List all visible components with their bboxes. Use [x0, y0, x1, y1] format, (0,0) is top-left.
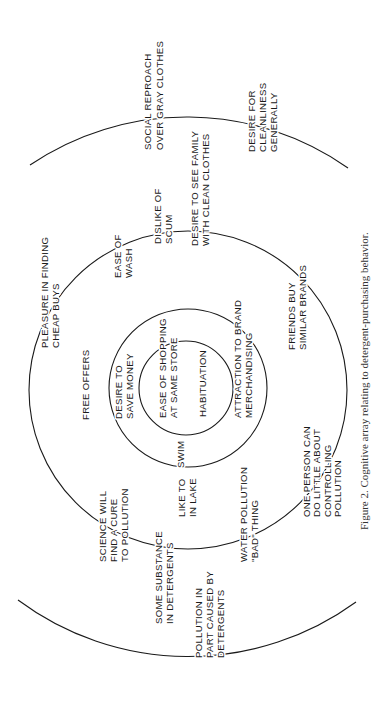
svg-text:OVER GRAY CLOTHES: OVER GRAY CLOTHES — [154, 41, 165, 150]
svg-text:DETERGENTS: DETERGENTS — [215, 589, 226, 658]
label-some-substance: SOME SUBSTANCE IN DETERGENTS — [153, 531, 175, 624]
svg-text:PLEASURE IN FINDING: PLEASURE IN FINDING — [39, 237, 50, 348]
svg-text:POLLUTION IN: POLLUTION IN — [193, 588, 204, 658]
svg-text:IN DETERGENTS: IN DETERGENTS — [164, 542, 175, 624]
svg-text:CHEAP BUYS: CHEAP BUYS — [50, 283, 61, 348]
svg-text:FIND A CURE: FIND A CURE — [108, 498, 119, 562]
ring-outer-bottom-arc — [18, 600, 356, 657]
svg-text:DESIRE TO: DESIRE TO — [113, 365, 124, 419]
svg-text:AT SAME STORE: AT SAME STORE — [168, 337, 179, 418]
label-like-to-in-lake: LIKE TO IN LAKE — [176, 478, 198, 517]
svg-text:ATTRACTION TO BRAND: ATTRACTION TO BRAND — [232, 300, 243, 418]
label-social-reproach: SOCIAL REPROACH OVER GRAY CLOTHES — [142, 41, 165, 150]
label-desire-to-see-family: DESIRE TO SEE FAMILY WITH CLEAN CLOTHES — [189, 130, 211, 246]
label-pleasure-cheap-buys: PLEASURE IN FINDING CHEAP BUYS — [39, 237, 61, 348]
svg-text:HABITUATION: HABITUATION — [197, 350, 208, 417]
figure-caption: Figure 2. Cognitive array relating to de… — [358, 232, 370, 530]
svg-text:WATER POLLUTION: WATER POLLUTION — [238, 467, 249, 562]
svg-text:LIKE TO: LIKE TO — [176, 478, 187, 517]
label-ease-of-wash: EASE OF WASH — [112, 234, 134, 278]
svg-text:SOCIAL REPROACH: SOCIAL REPROACH — [142, 54, 153, 150]
svg-text:WITH CLEAN CLOTHES: WITH CLEAN CLOTHES — [200, 133, 211, 246]
svg-text:FREE OFFERS: FREE OFFERS — [80, 350, 91, 420]
label-habituation: HABITUATION — [197, 350, 208, 417]
svg-text:SWIM: SWIM — [175, 441, 186, 468]
svg-text:DO LITTLE ABOUT: DO LITTLE ABOUT — [311, 429, 322, 517]
svg-text:DISLIKE OF: DISLIKE OF — [152, 188, 163, 244]
svg-text:"BAD" THING: "BAD" THING — [249, 500, 260, 562]
ring-inner — [139, 341, 233, 435]
svg-text:SCUM: SCUM — [163, 215, 174, 244]
label-one-person-can: ONE PERSON CAN DO LITTLE ABOUT CONTROLLI… — [301, 426, 343, 517]
svg-text:PART CAUSED BY: PART CAUSED BY — [204, 571, 215, 658]
label-swim: SWIM — [175, 441, 186, 468]
label-science-will-find-cure: SCIENCE WILL FIND A CURE TO POLLUTION — [97, 488, 130, 562]
svg-text:EASE OF SHOPPING: EASE OF SHOPPING — [157, 318, 168, 418]
label-ease-of-shopping: EASE OF SHOPPING AT SAME STORE — [157, 318, 179, 418]
label-free-offers: FREE OFFERS — [80, 350, 91, 420]
svg-text:MERCHANDISING: MERCHANDISING — [243, 333, 254, 418]
svg-text:SAVE MONEY: SAVE MONEY — [124, 353, 135, 419]
svg-text:POLLUTION: POLLUTION — [332, 460, 343, 517]
svg-text:GENERALLY: GENERALLY — [268, 92, 279, 152]
svg-text:DESIRE TO SEE FAMILY: DESIRE TO SEE FAMILY — [189, 130, 200, 246]
svg-text:EASE OF: EASE OF — [112, 234, 123, 278]
label-attraction-to-brand: ATTRACTION TO BRAND MERCHANDISING — [232, 300, 254, 418]
cognitive-array-diagram: HABITUATION EASE OF SHOPPING AT SAME STO… — [0, 0, 377, 709]
svg-text:TO POLLUTION: TO POLLUTION — [119, 488, 130, 562]
label-pollution-caused-by-detergents: POLLUTION IN PART CAUSED BY DETERGENTS — [193, 571, 226, 658]
svg-text:DESIRE FOR: DESIRE FOR — [246, 90, 257, 152]
label-dislike-of-scum: DISLIKE OF SCUM — [152, 188, 174, 244]
label-desire-for-cleanliness: DESIRE FOR CLEANLINESS GENERALLY — [246, 83, 279, 152]
label-desire-to-save-money: DESIRE TO SAVE MONEY — [113, 353, 135, 419]
svg-text:SCIENCE WILL: SCIENCE WILL — [97, 490, 108, 562]
svg-text:SIMILAR BRANDS: SIMILAR BRANDS — [297, 265, 308, 350]
label-water-pollution-bad: WATER POLLUTION "BAD" THING — [238, 467, 260, 562]
svg-text:SOME SUBSTANCE: SOME SUBSTANCE — [153, 531, 164, 624]
label-friends-buy-similar-brands: FRIENDS BUY SIMILAR BRANDS — [286, 265, 308, 350]
svg-text:CLEANLINESS: CLEANLINESS — [257, 83, 268, 152]
svg-text:WASH: WASH — [123, 248, 134, 278]
svg-text:FRIENDS BUY: FRIENDS BUY — [286, 282, 297, 350]
svg-text:IN LAKE: IN LAKE — [187, 478, 198, 517]
